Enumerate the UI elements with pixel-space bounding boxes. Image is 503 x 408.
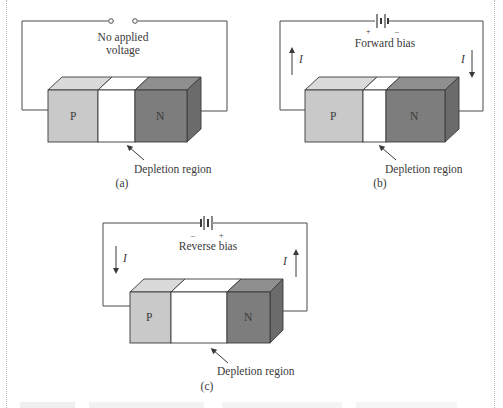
battery-icon <box>377 14 388 28</box>
depletion-region <box>171 292 227 343</box>
depletion-pointer-arrow <box>213 350 228 363</box>
condition-label-line2: voltage <box>83 44 163 57</box>
current-label-right: I <box>461 53 465 66</box>
depletion-region <box>98 90 135 142</box>
n-label: N <box>156 110 164 123</box>
panel-b <box>280 14 483 160</box>
depletion-region-label: Depletion region <box>134 163 212 176</box>
current-label-left: I <box>123 252 127 265</box>
current-label-left: I <box>299 53 303 66</box>
pn-junction-diagram <box>0 0 503 408</box>
panel-label-b: (b) <box>365 177 395 190</box>
n-label: N <box>244 311 252 324</box>
depletion-pointer-arrow <box>129 147 144 160</box>
panel-label-c: (c) <box>192 380 222 393</box>
current-label-right: I <box>283 255 287 268</box>
pn-block-c <box>130 279 283 343</box>
p-label: P <box>330 110 336 123</box>
n-label: N <box>410 110 418 123</box>
open-terminal-icon <box>109 19 138 24</box>
depletion-region-label: Depletion region <box>217 365 295 378</box>
condition-label-line1: No applied <box>83 31 163 44</box>
condition-label: Forward bias <box>340 37 430 50</box>
condition-label: Reverse bias <box>163 240 253 253</box>
p-label: P <box>70 110 76 123</box>
depletion-pointer-arrow <box>381 147 396 160</box>
panel-label-a: (a) <box>107 177 137 190</box>
depletion-region-label: Depletion region <box>385 163 463 176</box>
pn-block-b <box>305 77 459 142</box>
truncated-caption <box>20 402 480 408</box>
p-label: P <box>146 311 152 324</box>
panel-c <box>103 216 307 363</box>
depletion-region <box>363 90 386 142</box>
battery-icon <box>201 216 212 230</box>
